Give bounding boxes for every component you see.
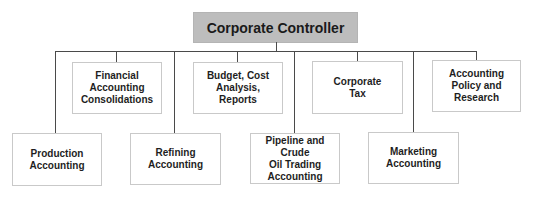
connector-production (55, 51, 56, 133)
node-production-accounting: Production Accounting (12, 133, 102, 186)
node-label: Refining Accounting (135, 147, 216, 171)
connector-refining (174, 51, 175, 133)
connector-pipeline (294, 51, 295, 133)
node-label: Production Accounting (30, 148, 85, 172)
node-label: Corporate Controller (207, 20, 345, 36)
node-label: Accounting Policy and Research (437, 68, 516, 104)
node-corporate-controller: Corporate Controller (193, 12, 358, 43)
node-marketing-accounting: Marketing Accounting (368, 132, 459, 184)
node-pipeline-crude-oil: Pipeline and Crude Oil Trading Accountin… (250, 133, 340, 184)
node-corporate-tax: Corporate Tax (312, 61, 403, 114)
node-budget-cost-analysis: Budget, Cost Analysis, Reports (193, 62, 283, 114)
node-accounting-policy: Accounting Policy and Research (432, 60, 521, 112)
connector-financial (116, 51, 117, 62)
node-label: Corporate Tax (334, 76, 382, 100)
node-financial-accounting: Financial Accounting Consolidations (72, 62, 162, 114)
connector-budget (237, 51, 238, 62)
node-label: Marketing Accounting (386, 146, 441, 170)
node-label: Financial Accounting Consolidations (77, 70, 157, 106)
connector-marketing (413, 51, 414, 132)
node-refining-accounting: Refining Accounting (130, 133, 221, 185)
node-label: Pipeline and Crude Oil Trading Accountin… (255, 135, 335, 183)
node-label: Budget, Cost Analysis, Reports (198, 70, 278, 106)
